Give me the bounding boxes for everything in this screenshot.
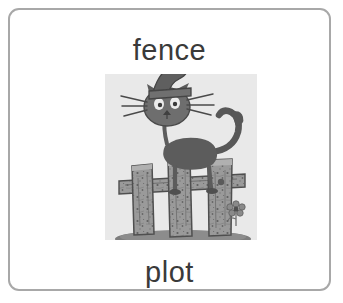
fence-post-right [208,159,232,236]
illustration-svg [105,74,257,240]
fence-post-left [132,164,154,235]
flashcard: fence [8,8,331,291]
cat-on-fence-illustration [105,74,257,240]
fence-post-middle [168,158,192,237]
word-label-top: fence [10,36,329,65]
word-label-bottom: plot [10,258,329,287]
